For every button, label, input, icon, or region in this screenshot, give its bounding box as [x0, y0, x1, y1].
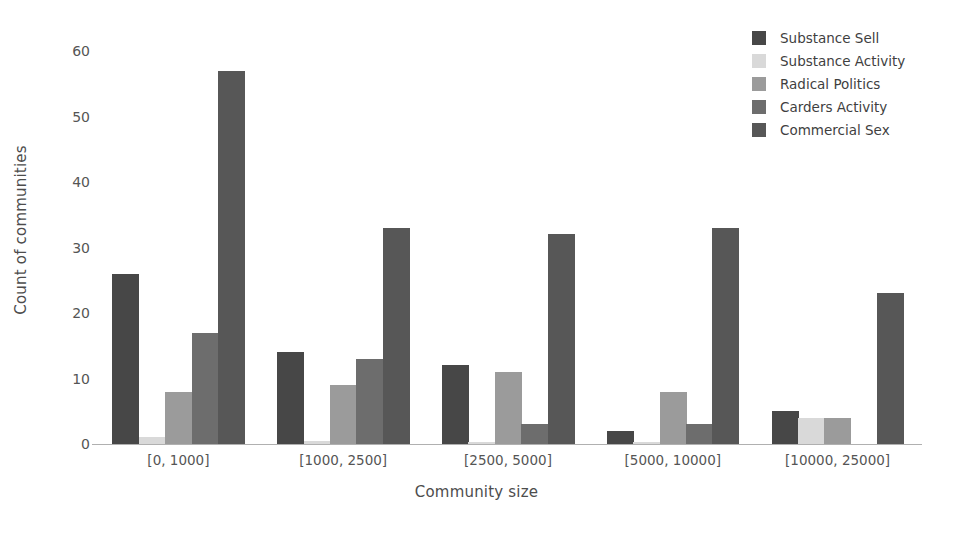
bar — [712, 228, 739, 444]
bar-chart-figure: Count of communities 0102030405060 [0, 1… — [0, 0, 953, 535]
bar-group — [112, 38, 244, 444]
bar — [548, 234, 575, 444]
bar — [139, 437, 166, 444]
y-tick-label: 30 — [56, 240, 90, 256]
bar — [607, 431, 634, 444]
bar — [304, 441, 331, 444]
bar-group — [277, 38, 409, 444]
x-axis-label: Community size — [0, 483, 953, 501]
legend-swatch-icon — [752, 100, 766, 114]
legend: Substance SellSubstance ActivityRadical … — [752, 26, 952, 141]
legend-item: Substance Sell — [752, 26, 952, 49]
y-tick-label: 60 — [56, 43, 90, 59]
bar — [330, 385, 357, 444]
x-tick-label: [10000, 25000] — [785, 452, 890, 468]
bar — [383, 228, 410, 444]
bar — [165, 392, 192, 444]
bar — [112, 274, 139, 444]
bar — [218, 71, 245, 444]
x-tick-label: [2500, 5000] — [464, 452, 552, 468]
y-tick-label: 10 — [56, 371, 90, 387]
bar — [277, 352, 304, 444]
y-axis-label-container: Count of communities — [6, 0, 36, 460]
bar — [356, 359, 383, 444]
legend-swatch-icon — [752, 123, 766, 137]
bar — [824, 418, 851, 444]
y-tick-label: 20 — [56, 305, 90, 321]
legend-item: Radical Politics — [752, 72, 952, 95]
legend-label: Carders Activity — [780, 99, 887, 115]
legend-item: Carders Activity — [752, 95, 952, 118]
legend-label: Substance Activity — [780, 53, 905, 69]
x-tick-label: [5000, 10000] — [625, 452, 721, 468]
bar — [192, 333, 219, 444]
x-tick-label: [0, 1000] — [147, 452, 209, 468]
y-axis-label: Count of communities — [12, 145, 30, 314]
legend-label: Commercial Sex — [780, 122, 890, 138]
legend-label: Substance Sell — [780, 30, 879, 46]
bar-group — [442, 38, 574, 444]
bar — [798, 418, 825, 444]
bar — [468, 442, 495, 444]
bar — [877, 293, 904, 444]
legend-swatch-icon — [752, 31, 766, 45]
legend-swatch-icon — [752, 77, 766, 91]
legend-item: Substance Activity — [752, 49, 952, 72]
bar — [772, 411, 799, 444]
y-tick-label: 50 — [56, 109, 90, 125]
legend-swatch-icon — [752, 54, 766, 68]
bar — [633, 442, 660, 444]
legend-item: Commercial Sex — [752, 118, 952, 141]
x-axis-line — [92, 444, 922, 445]
legend-label: Radical Politics — [780, 76, 880, 92]
bar — [442, 365, 469, 444]
bar — [686, 424, 713, 444]
bar — [521, 424, 548, 444]
y-axis-ticks: 0102030405060 — [50, 0, 90, 535]
bar — [660, 392, 687, 444]
x-tick-label: [1000, 2500] — [299, 452, 387, 468]
y-tick-label: 40 — [56, 174, 90, 190]
bar-group — [607, 38, 739, 444]
bar — [495, 372, 522, 444]
y-tick-label: 0 — [56, 436, 90, 452]
